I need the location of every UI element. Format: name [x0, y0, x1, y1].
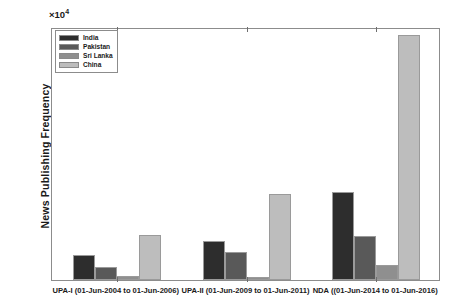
x-axis-tick-mark-top: [247, 27, 248, 32]
exponent-base: ×10: [49, 9, 65, 20]
legend-item-india[interactable]: India: [59, 34, 113, 42]
legend-label: Pakistan: [83, 43, 110, 51]
x-axis-tick-label: UPA-I (01-Jun-2004 to 01-Jun-2006): [53, 286, 179, 295]
bar-china-group-3: [398, 35, 420, 280]
x-axis-tick-mark: [376, 277, 377, 282]
bar-pakistan-group-2: [225, 252, 247, 280]
bar-china-group-1: [139, 235, 161, 280]
x-axis-tick-label: NDA ((01-Jun-2014 to 01-Jun-2016): [313, 286, 438, 295]
bar-pakistan-group-3: [354, 236, 376, 280]
legend-swatch-icon: [59, 53, 79, 59]
bar-chart-figure: News Publishing Frequency ×104 00.511.52…: [0, 0, 451, 306]
legend[interactable]: IndiaPakistanSri LankaChina: [55, 30, 118, 73]
bar-india-group-2: [203, 241, 225, 280]
x-axis-tick-mark-top: [376, 27, 377, 32]
legend-swatch-icon: [59, 62, 79, 68]
bar-india-group-3: [332, 192, 354, 280]
x-axis-tick-mark: [117, 277, 118, 282]
x-axis-tick-mark: [247, 277, 248, 282]
legend-swatch-icon: [59, 35, 79, 41]
legend-swatch-icon: [59, 44, 79, 50]
x-axis-tick-label: UPA-II (01-Jun-2009 to 01-Jun-2011): [181, 286, 309, 295]
legend-item-sri-lanka[interactable]: Sri Lanka: [59, 52, 113, 60]
bar-pakistan-group-1: [95, 267, 117, 280]
legend-item-china[interactable]: China: [59, 61, 113, 69]
legend-label: China: [83, 61, 101, 69]
y-axis-title: News Publishing Frequency: [39, 26, 51, 286]
bar-china-group-2: [269, 194, 291, 280]
bar-sri-lanka-group-1: [117, 276, 139, 280]
legend-item-pakistan[interactable]: Pakistan: [59, 43, 113, 51]
bar-india-group-1: [73, 255, 95, 280]
legend-label: Sri Lanka: [83, 52, 113, 60]
exponent-power: 4: [65, 8, 69, 15]
bar-sri-lanka-group-2: [247, 277, 269, 280]
y-axis-exponent-label: ×104: [49, 8, 69, 20]
bar-sri-lanka-group-3: [376, 265, 398, 280]
legend-label: India: [83, 34, 98, 42]
